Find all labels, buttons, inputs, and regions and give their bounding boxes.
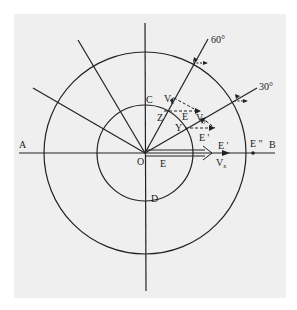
vertical-axis bbox=[145, 23, 146, 291]
vector-diagram: A B C D O 60° 30° Z Y Vz Vy E E ' E ' E … bbox=[0, 0, 297, 310]
label-Z: Z bbox=[157, 112, 163, 123]
label-30deg: 30° bbox=[259, 81, 273, 92]
label-Vy: Vy bbox=[196, 112, 206, 124]
label-C: C bbox=[146, 94, 153, 105]
label-O: O bbox=[137, 156, 144, 167]
label-B: B bbox=[269, 139, 276, 150]
label-Vx: Vx bbox=[216, 157, 226, 169]
label-Vz: Vz bbox=[164, 93, 174, 105]
e-double-prime-dot bbox=[251, 151, 255, 155]
label-E-main: E bbox=[160, 158, 166, 169]
label-E-upper: E bbox=[182, 111, 188, 122]
label-60deg: 60° bbox=[211, 34, 225, 45]
label-D: D bbox=[151, 193, 158, 204]
label-E-prime-2: E ' bbox=[218, 140, 229, 151]
label-Y: Y bbox=[175, 122, 182, 133]
ray-120 bbox=[78, 40, 145, 153]
label-E-prime-1: E ' bbox=[199, 132, 210, 143]
label-E-double-prime: E " bbox=[250, 138, 263, 149]
label-A: A bbox=[19, 139, 27, 150]
